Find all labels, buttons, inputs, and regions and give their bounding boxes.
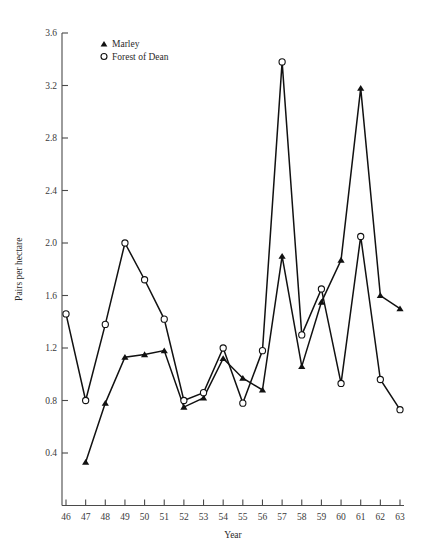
data-point-marker <box>358 233 364 239</box>
data-point-marker <box>259 348 265 354</box>
legend-marker-triangle-icon <box>101 41 108 47</box>
legend-label: Marley <box>112 39 140 49</box>
y-axis-tick-label: 1.6 <box>45 291 57 301</box>
x-axis-tick-label: 61 <box>356 512 366 522</box>
y-axis-tick-label: 2.4 <box>45 186 57 196</box>
data-point-marker <box>318 286 324 292</box>
x-axis-tick-label: 46 <box>61 512 71 522</box>
data-point-marker <box>377 376 383 382</box>
y-axis-tick-label: 0.4 <box>45 448 57 458</box>
legend-label: Forest of Dean <box>112 52 169 62</box>
x-axis-tick-label: 58 <box>297 512 307 522</box>
x-axis-tick-label: 47 <box>81 512 91 522</box>
data-point-marker <box>357 85 364 91</box>
y-axis-tick-label: 3.6 <box>45 28 57 38</box>
x-axis-tick-label: 52 <box>179 512 189 522</box>
y-axis-tick-label: 0.8 <box>45 396 57 406</box>
chart-series <box>63 59 404 465</box>
data-point-marker <box>83 397 89 403</box>
x-axis-tick-label: 60 <box>336 512 346 522</box>
data-point-marker <box>220 345 226 351</box>
x-axis-tick-label: 51 <box>159 512 169 522</box>
y-axis-tick-label: 1.2 <box>45 343 57 353</box>
data-point-marker <box>298 363 305 369</box>
data-point-marker <box>337 257 344 263</box>
data-point-marker <box>161 347 168 353</box>
x-axis-tick-label: 54 <box>218 512 228 522</box>
x-axis-title: Year <box>224 530 242 540</box>
y-axis-tick-label: 2.8 <box>45 133 57 143</box>
x-axis-tick-label: 55 <box>238 512 248 522</box>
chart-container: 0.40.81.21.62.02.42.83.23.64647484950515… <box>0 0 432 540</box>
x-axis-tick-label: 57 <box>277 512 287 522</box>
line-chart: 0.40.81.21.62.02.42.83.23.64647484950515… <box>0 0 432 540</box>
x-axis-tick-label: 53 <box>199 512 209 522</box>
data-point-marker <box>122 240 128 246</box>
data-point-marker <box>82 459 89 465</box>
series-line-forest-of-dean <box>66 62 400 410</box>
data-point-marker <box>377 292 384 298</box>
x-axis-tick-label: 48 <box>101 512 111 522</box>
data-point-marker <box>141 277 147 283</box>
data-point-marker <box>161 316 167 322</box>
y-axis-title: Pairs per hectare <box>14 238 24 301</box>
data-point-marker <box>299 332 305 338</box>
data-point-marker <box>63 311 69 317</box>
chart-legend: MarleyForest of Dean <box>101 39 169 62</box>
data-point-marker <box>279 59 285 65</box>
data-point-marker <box>181 397 187 403</box>
y-axis-tick-label: 3.2 <box>45 81 57 91</box>
x-axis-tick-label: 56 <box>258 512 268 522</box>
data-point-marker <box>102 321 108 327</box>
x-axis-tick-label: 49 <box>120 512 130 522</box>
data-point-marker <box>240 400 246 406</box>
y-axis-tick-label: 2.0 <box>45 238 57 248</box>
data-point-marker <box>200 390 206 396</box>
x-axis-tick-label: 62 <box>376 512 386 522</box>
x-axis-tick-label: 59 <box>317 512 327 522</box>
x-axis-tick-label: 63 <box>395 512 405 522</box>
data-point-marker <box>180 404 187 410</box>
data-point-marker <box>397 407 403 413</box>
x-axis-tick-label: 50 <box>140 512 150 522</box>
data-point-marker <box>338 380 344 386</box>
legend-marker-circle-icon <box>101 54 107 60</box>
chart-axes: 0.40.81.21.62.02.42.83.23.64647484950515… <box>45 28 405 521</box>
data-point-marker <box>102 400 109 406</box>
data-point-marker <box>279 253 286 259</box>
